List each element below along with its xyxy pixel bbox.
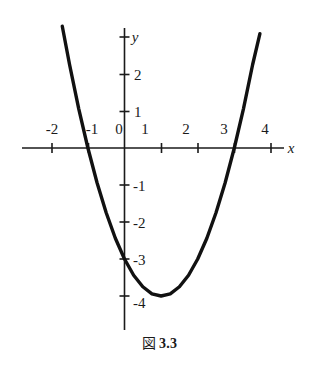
y-tick-label--3: -3: [133, 252, 146, 268]
caption-number: 3.3: [159, 336, 177, 351]
x-tick-label--1: -1: [86, 121, 99, 137]
x-tick-label-3: 3: [220, 121, 228, 137]
y-axis-label: y: [130, 29, 139, 45]
caption-label: 図: [142, 336, 156, 351]
x-tick-label-4: 4: [261, 121, 269, 137]
parabola-curve: [62, 26, 260, 296]
y-tick-label--2: -2: [133, 215, 146, 231]
x-tick-label-0: 0: [115, 121, 123, 137]
y-tick-label--4: -4: [133, 295, 146, 311]
parabola-chart: -2 -1 0 1 2 3 4 2 1 -1 -2 -3 -4 x y: [0, 0, 319, 371]
figure-caption: 図3.3: [0, 332, 319, 352]
y-tick-label-1: 1: [134, 104, 142, 120]
x-tick-label-1: 1: [141, 121, 149, 137]
y-tick-label-2: 2: [134, 67, 142, 83]
x-axis-label: x: [287, 140, 295, 156]
figure-container: -2 -1 0 1 2 3 4 2 1 -1 -2 -3 -4 x y 図3.3: [0, 0, 319, 371]
y-tick-label--1: -1: [133, 178, 146, 194]
x-tick-label-2: 2: [182, 121, 190, 137]
x-tick-label--2: -2: [46, 121, 59, 137]
